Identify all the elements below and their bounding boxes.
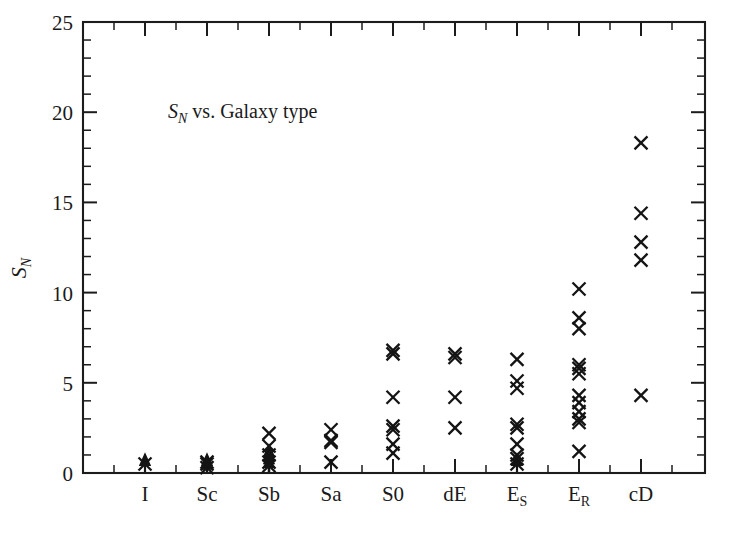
data-point: [635, 254, 648, 267]
x-axis-ticks: [114, 22, 672, 473]
x-tick-label-base: S0: [382, 482, 404, 506]
data-markers: [139, 136, 648, 474]
x-tick-label: Sc: [197, 482, 218, 506]
x-axis-tick-labels: IScSbSaS0dEESERcD: [142, 482, 654, 509]
x-tick-label-base: E: [507, 482, 520, 506]
data-point: [511, 382, 524, 395]
x-tick-label: I: [142, 482, 149, 506]
data-point: [511, 353, 524, 366]
annotation-text: vs. Galaxy type: [187, 100, 317, 123]
x-tick-label-base: Sc: [197, 482, 218, 506]
x-tick-label: Sb: [258, 482, 280, 506]
data-point: [325, 423, 338, 436]
data-point: [635, 389, 648, 402]
upper-limit-head: [141, 455, 150, 465]
x-tick-label-base: Sa: [321, 482, 343, 506]
data-point: [635, 236, 648, 249]
annotation-subscript: N: [177, 111, 188, 126]
x-tick-label: cD: [629, 482, 654, 506]
data-point: [325, 434, 338, 447]
data-point: [387, 391, 400, 404]
y-axis-tick-labels: 0510152025: [52, 11, 73, 486]
data-point: [573, 322, 586, 335]
data-point: [635, 207, 648, 220]
data-point: [573, 311, 586, 324]
y-axis-ticks: [83, 22, 705, 473]
x-tick-label: S0: [382, 482, 404, 506]
data-point: [573, 445, 586, 458]
data-point: [573, 282, 586, 295]
x-tick-label: ES: [507, 482, 528, 509]
plot-frame: [83, 22, 705, 473]
data-point: [263, 427, 276, 440]
data-point: [449, 421, 462, 434]
x-tick-label-base: cD: [629, 482, 654, 506]
data-point: [325, 436, 338, 449]
y-axis-title: SN: [6, 257, 34, 278]
data-point: [387, 447, 400, 460]
data-point: [573, 389, 586, 402]
x-tick-label: ER: [568, 482, 591, 509]
figure-container: 0510152025 IScSbSaS0dEESERcD SN SN vs. G…: [0, 0, 730, 533]
x-tick-label-base: Sb: [258, 482, 280, 506]
y-tick-label: 5: [63, 372, 74, 396]
x-tick-label-base: E: [568, 482, 581, 506]
data-point: [573, 405, 586, 418]
x-tick-label-base: I: [142, 482, 149, 506]
x-tick-label-subscript: R: [581, 494, 591, 509]
data-point: [511, 374, 524, 387]
annotation-symbol: S: [168, 100, 178, 122]
data-point: [449, 391, 462, 404]
y-axis-title-subscript: N: [19, 257, 34, 268]
x-tick-label-subscript: S: [520, 494, 528, 509]
y-axis-title-symbol: S: [6, 267, 31, 278]
x-tick-label: dE: [443, 482, 466, 506]
scatter-plot: 0510152025 IScSbSaS0dEESERcD SN SN vs. G…: [0, 0, 730, 533]
plot-annotation: SN vs. Galaxy type: [168, 100, 317, 126]
upper-limit-arrow: [141, 455, 150, 472]
data-point: [511, 438, 524, 451]
y-tick-label: 10: [52, 282, 73, 306]
y-tick-label: 20: [52, 101, 73, 125]
x-tick-label-base: dE: [443, 482, 466, 506]
axis-frame: [83, 22, 705, 473]
y-tick-label: 0: [63, 462, 74, 486]
x-tick-label: Sa: [321, 482, 343, 506]
y-tick-label: 15: [52, 191, 73, 215]
y-tick-label: 25: [52, 11, 73, 35]
data-point: [635, 136, 648, 149]
